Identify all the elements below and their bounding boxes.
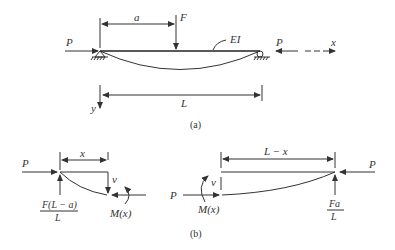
label-l-minus-x: L − x [263,145,288,157]
reaction-numerator: Fa [328,198,340,209]
label-x-axis: x [330,36,336,48]
caption-a: (a) [190,119,201,131]
label-x: x [79,147,85,159]
label-ei: EI [229,33,242,45]
reaction-denominator: L [54,212,61,223]
label-p-right: P [368,158,376,170]
label-moment: M(x) [197,203,220,216]
label-moment: M(x) [109,207,132,220]
figure-b-left-segment: P x v F(L − a) L M(x) [21,147,146,223]
reaction-numerator: F(L − a) [41,199,78,211]
label-p-left: P [65,36,73,48]
deflected-curve [100,51,260,70]
label-y-axis: y [90,102,96,114]
figure-a: P P x a F EI y L (a) [65,11,336,131]
label-v: v [112,173,117,185]
left-pin-support-icon [91,51,108,60]
reaction-denominator: L [330,211,337,222]
deflected-curve [60,172,107,195]
caption-b: (b) [190,228,202,240]
ei-leader-line [213,40,226,50]
label-p-left: P [169,189,177,201]
moment-arrow-icon [201,176,208,202]
label-a: a [134,11,140,23]
label-f: F [179,11,187,23]
deflected-curve [222,172,335,195]
figure-b-right-segment: L − x v P P M(x) Fa L [169,145,376,222]
label-v: v [211,176,216,188]
label-p: P [21,157,29,169]
beam-diagram: P P x a F EI y L (a) P [0,0,395,250]
label-p-right: P [275,36,283,48]
label-l: L [180,97,187,109]
